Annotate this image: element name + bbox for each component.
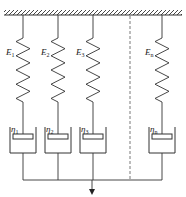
branch-1: E1η1 [5, 15, 36, 180]
load-arrow-icon [89, 180, 95, 195]
dashpot-piston-icon [48, 134, 68, 139]
dashpot-piston-icon [83, 134, 103, 139]
spring-icon [51, 15, 65, 134]
dashpot-label: ηn [150, 124, 157, 135]
branch-4: Enηn [144, 15, 175, 180]
dashpot-label: η2 [46, 124, 53, 135]
fixed-ceiling [4, 10, 182, 15]
dashpot-label: η3 [81, 124, 88, 135]
maxwell-model-diagram: E1η1E2η2E3η3Enηn [0, 0, 186, 197]
spring-label: E2 [40, 47, 50, 58]
dashpot-piston-icon [13, 134, 33, 139]
dashpot-label: η1 [11, 124, 18, 135]
spring-icon [155, 15, 169, 134]
spring-icon [86, 15, 100, 134]
branch-3: E3η3 [75, 15, 106, 180]
spring-icon [16, 15, 30, 134]
dashpot-piston-icon [152, 134, 172, 139]
spring-label: E1 [5, 47, 15, 58]
spring-label: E3 [75, 47, 85, 58]
branch-2: E2η2 [40, 15, 71, 180]
spring-label: En [144, 47, 154, 58]
